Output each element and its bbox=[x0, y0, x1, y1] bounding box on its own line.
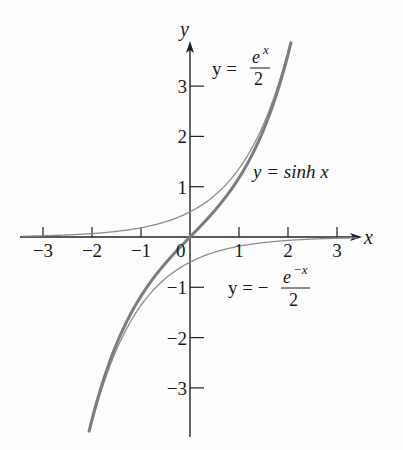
annotation-sinh: y = sinh x bbox=[251, 161, 329, 182]
origin-label: 0 bbox=[176, 240, 186, 261]
y-tick-label: −2 bbox=[167, 328, 187, 349]
y-tick-label: 1 bbox=[178, 177, 188, 198]
x-axis-label: x bbox=[363, 226, 373, 248]
x-tick-label: 1 bbox=[234, 240, 244, 261]
y-tick-label: −1 bbox=[167, 277, 187, 298]
plot-area: −3−2−1123−3−2−1123 y x 0 y = e x 2 y = s… bbox=[0, 0, 403, 450]
x-tick-label: −1 bbox=[131, 240, 151, 261]
svg-text:x: x bbox=[262, 42, 269, 57]
annotation-neg-exp-half: y = − e −x 2 bbox=[228, 262, 310, 310]
y-tick-label: 2 bbox=[178, 126, 188, 147]
curve-neg-exp-half bbox=[90, 238, 357, 431]
svg-text:e: e bbox=[252, 47, 260, 67]
svg-text:e: e bbox=[283, 267, 291, 287]
y-axis-label: y bbox=[178, 18, 189, 41]
y-tick-label: 3 bbox=[178, 76, 188, 97]
x-tick-label: 2 bbox=[283, 240, 293, 261]
x-tick-label: 3 bbox=[332, 240, 342, 261]
x-tick-label: −2 bbox=[82, 240, 102, 261]
svg-text:y =: y = bbox=[212, 58, 237, 79]
svg-text:−x: −x bbox=[293, 262, 308, 277]
curve-exp-half bbox=[23, 44, 290, 237]
svg-text:2: 2 bbox=[254, 69, 263, 89]
y-tick-label: −3 bbox=[167, 378, 187, 399]
annotation-exp-half: y = e x 2 bbox=[212, 42, 270, 89]
svg-text:y = −: y = − bbox=[228, 277, 268, 298]
x-tick-label: −3 bbox=[33, 240, 53, 261]
svg-text:2: 2 bbox=[289, 290, 298, 310]
chart-container: −3−2−1123−3−2−1123 y x 0 y = e x 2 y = s… bbox=[0, 0, 403, 450]
